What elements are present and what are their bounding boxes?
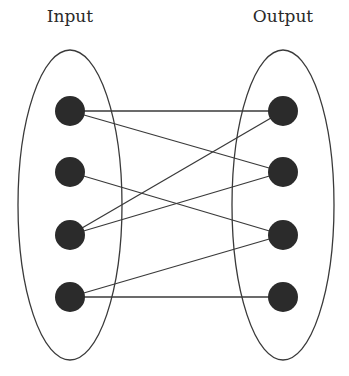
output-set-label: Output	[243, 6, 323, 26]
output-node-O4	[268, 282, 298, 312]
input-node-I4	[55, 282, 85, 312]
edge-I4-O3	[70, 235, 283, 297]
edge-I3-O1	[70, 111, 283, 235]
input-set-label: Input	[30, 6, 110, 26]
input-node-I3	[55, 220, 85, 250]
output-node-O2	[268, 157, 298, 187]
input-node-I2	[55, 157, 85, 187]
input-node-I1	[55, 96, 85, 126]
edge-I1-O2	[70, 111, 283, 172]
output-node-O3	[268, 220, 298, 250]
diagram-canvas	[0, 0, 349, 376]
mapping-diagram: Input Output	[0, 0, 349, 376]
output-node-O1	[268, 96, 298, 126]
